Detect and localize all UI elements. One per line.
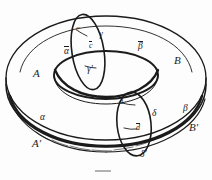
label-point-c-bar: c bbox=[89, 42, 93, 50]
d-bar-glyph: d bbox=[136, 124, 140, 132]
label-region-A: A bbox=[33, 68, 40, 79]
figure-torus-diagram: A A′ B B′ α α β β γ γ′ δ δ′ c c d d bbox=[0, 0, 212, 180]
label-region-B: B bbox=[174, 55, 181, 66]
label-curve-delta: δ bbox=[152, 109, 156, 119]
caption-rule-mark bbox=[95, 170, 111, 172]
torus-drawing bbox=[0, 0, 212, 180]
tick-d-crossing bbox=[122, 103, 135, 105]
label-point-c: c bbox=[76, 25, 80, 33]
overbar bbox=[89, 41, 92, 42]
overbar bbox=[136, 123, 140, 124]
label-point-d-bar: d bbox=[136, 124, 140, 132]
label-region-B-prime: B′ bbox=[189, 122, 198, 133]
alpha-bar-text: α bbox=[64, 46, 69, 56]
beta-bar-glyph: β bbox=[138, 42, 143, 52]
label-curve-gamma-prime: γ′ bbox=[87, 65, 93, 75]
overbar bbox=[64, 46, 69, 47]
label-curve-alpha: α bbox=[40, 113, 45, 123]
label-point-d: d bbox=[119, 98, 123, 106]
torus-inner-hole-upper bbox=[54, 51, 158, 99]
label-region-A-prime: A′ bbox=[32, 138, 41, 149]
curve-beta-bar bbox=[20, 26, 192, 72]
label-curve-alpha-bar: α bbox=[64, 47, 69, 57]
c-bar-glyph: c bbox=[89, 42, 93, 50]
d-bar-text: d bbox=[136, 123, 140, 132]
torus-bottom-silhouette bbox=[8, 92, 106, 152]
label-curve-beta: β bbox=[183, 104, 188, 114]
overbar bbox=[138, 41, 142, 42]
label-curve-beta-bar: β bbox=[138, 42, 143, 52]
beta-bar-text: β bbox=[138, 41, 143, 51]
c-bar-text: c bbox=[89, 41, 93, 50]
label-curve-delta-prime: δ′ bbox=[140, 150, 147, 160]
alpha-bar-glyph: α bbox=[64, 47, 69, 57]
label-curve-gamma: γ bbox=[99, 30, 103, 40]
